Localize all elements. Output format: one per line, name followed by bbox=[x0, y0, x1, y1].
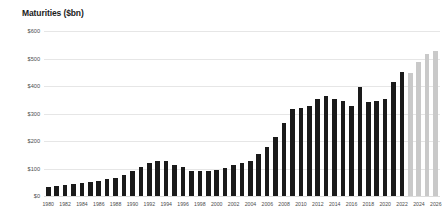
bar-slot bbox=[255, 31, 263, 196]
x-axis-label: 2022 bbox=[396, 201, 408, 207]
bar-2007 bbox=[273, 137, 278, 196]
plot-area bbox=[44, 31, 440, 196]
bar-slot bbox=[212, 31, 220, 196]
x-axis-label: 1988 bbox=[110, 201, 122, 207]
bar-2024 bbox=[416, 62, 421, 196]
bar-slot bbox=[86, 31, 94, 196]
bar-2026 bbox=[433, 51, 438, 196]
y-axis-label: $300 bbox=[10, 111, 40, 117]
maturities-bar-chart: Maturities ($bn) $0$100$200$300$400$500$… bbox=[0, 0, 446, 224]
bar-2025 bbox=[425, 54, 430, 196]
bar-slot bbox=[78, 31, 86, 196]
bar-slot bbox=[322, 31, 330, 196]
x-axis-label: 1996 bbox=[177, 201, 189, 207]
bar-1990 bbox=[130, 171, 135, 196]
bar-slot bbox=[364, 31, 372, 196]
bar-1982 bbox=[63, 185, 68, 196]
bar-1994 bbox=[164, 161, 169, 196]
bar-series bbox=[44, 31, 440, 196]
bar-2020 bbox=[383, 99, 388, 196]
bar-2012 bbox=[315, 99, 320, 196]
y-axis-label: $500 bbox=[10, 56, 40, 62]
bar-1987 bbox=[105, 179, 110, 196]
x-axis-label: 1992 bbox=[144, 201, 156, 207]
bar-slot bbox=[423, 31, 431, 196]
y-axis-label: $600 bbox=[10, 28, 40, 34]
bar-2009 bbox=[290, 109, 295, 196]
bar-slot bbox=[238, 31, 246, 196]
bar-slot bbox=[162, 31, 170, 196]
bar-1999 bbox=[206, 171, 211, 196]
bar-1995 bbox=[172, 165, 177, 196]
bar-2011 bbox=[307, 106, 312, 196]
bar-2000 bbox=[214, 170, 219, 196]
bar-slot bbox=[297, 31, 305, 196]
x-axis-label: 1986 bbox=[93, 201, 105, 207]
x-axis-label: 2010 bbox=[295, 201, 307, 207]
x-axis-label: 2012 bbox=[312, 201, 324, 207]
bar-slot bbox=[381, 31, 389, 196]
bar-1984 bbox=[80, 183, 85, 196]
bar-1996 bbox=[181, 167, 186, 196]
x-axis-label: 2004 bbox=[245, 201, 257, 207]
bar-1998 bbox=[198, 171, 203, 196]
bar-2003 bbox=[240, 163, 245, 196]
bar-slot bbox=[111, 31, 119, 196]
bar-slot bbox=[179, 31, 187, 196]
x-axis-label: 2018 bbox=[363, 201, 375, 207]
x-axis-label: 2020 bbox=[379, 201, 391, 207]
x-axis-label: 1990 bbox=[127, 201, 139, 207]
bar-slot bbox=[431, 31, 439, 196]
bar-slot bbox=[280, 31, 288, 196]
bar-slot bbox=[246, 31, 254, 196]
bar-slot bbox=[103, 31, 111, 196]
bar-2021 bbox=[391, 82, 396, 196]
bar-slot bbox=[120, 31, 128, 196]
x-axis-label: 2016 bbox=[346, 201, 358, 207]
bar-1989 bbox=[122, 175, 127, 196]
bar-1985 bbox=[88, 182, 93, 196]
bar-slot bbox=[204, 31, 212, 196]
bar-slot bbox=[288, 31, 296, 196]
bar-2001 bbox=[223, 168, 228, 196]
x-axis-label: 2008 bbox=[278, 201, 290, 207]
bar-2004 bbox=[248, 161, 253, 196]
bar-slot bbox=[196, 31, 204, 196]
x-axis-label: 2024 bbox=[413, 201, 425, 207]
bar-2014 bbox=[332, 99, 337, 196]
bar-slot bbox=[356, 31, 364, 196]
bar-slot bbox=[61, 31, 69, 196]
bar-2019 bbox=[374, 101, 379, 196]
bar-1988 bbox=[113, 178, 118, 196]
bar-2018 bbox=[366, 102, 371, 196]
bar-slot bbox=[314, 31, 322, 196]
x-axis-label: 2000 bbox=[211, 201, 223, 207]
y-axis-label: $100 bbox=[10, 166, 40, 172]
bar-1992 bbox=[147, 163, 152, 196]
x-axis-label: 2026 bbox=[430, 201, 442, 207]
bar-slot bbox=[187, 31, 195, 196]
bar-2005 bbox=[256, 154, 261, 196]
bar-slot bbox=[52, 31, 60, 196]
x-axis-label: 1994 bbox=[160, 201, 172, 207]
bar-slot bbox=[347, 31, 355, 196]
bar-2017 bbox=[358, 87, 363, 196]
bar-slot bbox=[271, 31, 279, 196]
y-axis-label: $400 bbox=[10, 83, 40, 89]
bar-2023 bbox=[408, 73, 413, 196]
bar-2015 bbox=[341, 101, 346, 196]
bar-2016 bbox=[349, 106, 354, 196]
bar-slot bbox=[339, 31, 347, 196]
bar-2013 bbox=[324, 96, 329, 196]
bar-slot bbox=[305, 31, 313, 196]
y-axis-label: $0 bbox=[10, 193, 40, 199]
bar-1986 bbox=[96, 181, 101, 196]
bar-1991 bbox=[139, 167, 144, 196]
x-axis-label: 1980 bbox=[42, 201, 54, 207]
bar-slot bbox=[221, 31, 229, 196]
x-axis-label: 2006 bbox=[261, 201, 273, 207]
x-axis-label: 1982 bbox=[59, 201, 71, 207]
bar-slot bbox=[330, 31, 338, 196]
bar-slot bbox=[406, 31, 414, 196]
bar-slot bbox=[44, 31, 52, 196]
